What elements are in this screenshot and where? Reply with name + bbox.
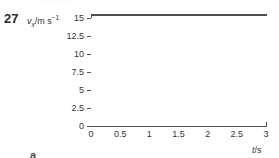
y-axis-tick-label: 15 xyxy=(74,14,84,23)
scan-artifact-top-text: … … …… xyxy=(38,0,100,3)
x-axis-tick-label: 0 xyxy=(79,130,103,139)
series-line-velocity xyxy=(91,14,267,16)
y-axis-tick xyxy=(87,126,91,127)
x-axis-tick xyxy=(266,122,267,126)
y-axis-tick-label: 10 xyxy=(74,50,84,59)
x-axis-tick-label: 2.5 xyxy=(225,130,249,139)
x-axis-title: t/s xyxy=(252,145,262,155)
figure-root: … … …… 27 vx/m s−1 t/s 02.557.51012.515 … xyxy=(0,0,279,158)
y-axis-unit-exponent: −1 xyxy=(52,14,59,21)
x-axis-tick-label: 1 xyxy=(137,130,161,139)
y-axis-title: vx/m s−1 xyxy=(27,12,59,30)
x-axis-line xyxy=(91,126,267,127)
question-number: 27 xyxy=(4,11,18,26)
x-axis-tick-label: 0.5 xyxy=(108,130,132,139)
part-label: a xyxy=(30,150,36,158)
y-axis-tick-label: 7.5 xyxy=(71,68,84,77)
plot-area xyxy=(91,18,266,126)
x-axis-tick-label: 2 xyxy=(196,130,220,139)
y-axis-unit: m s xyxy=(37,16,52,26)
y-axis-tick-label: 2.5 xyxy=(71,104,84,113)
x-axis-tick-label: 1.5 xyxy=(167,130,191,139)
x-axis-unit: s xyxy=(257,145,262,155)
y-axis-tick-label: 12.5 xyxy=(66,32,84,41)
x-axis-tick-label: 3 xyxy=(254,130,278,139)
y-axis-tick-label: 5 xyxy=(79,86,84,95)
